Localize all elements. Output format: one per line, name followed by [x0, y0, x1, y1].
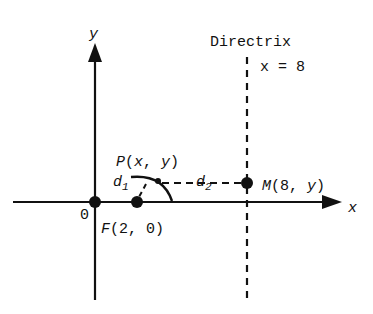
x-axis-arrow-icon	[322, 195, 342, 209]
origin-dot	[89, 196, 101, 208]
point-p-dot	[155, 178, 161, 184]
focus-coords: (2, 0)	[110, 221, 164, 238]
origin-label: 0	[80, 207, 89, 224]
x-axis-label: x	[347, 200, 357, 217]
distance-d1-label: d1	[113, 174, 129, 193]
point-m-dot	[241, 177, 253, 189]
directrix-equation: x = 8	[260, 59, 305, 76]
point-m-label: M(8, y)	[262, 178, 325, 195]
y-axis-arrow-icon	[88, 43, 102, 62]
directrix-title: Directrix	[210, 34, 291, 51]
distance-d1-line	[139, 184, 146, 197]
focus-label: F(2, 0)	[101, 221, 164, 238]
y-axis-label: y	[88, 26, 99, 43]
parabola-diagram: y x 0 F(2, 0) Directrix x = 8 P(x, y) M(…	[0, 0, 373, 314]
distance-d2-label: d2	[196, 174, 212, 193]
focus-dot	[131, 196, 143, 208]
point-p-label: P(x, y)	[116, 154, 179, 171]
